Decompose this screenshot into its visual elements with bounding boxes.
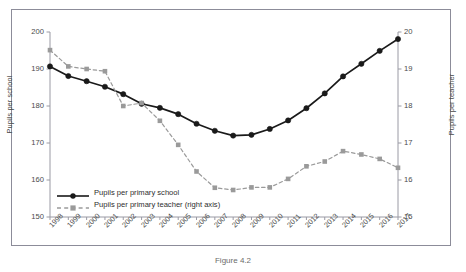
series-marker-0 (157, 105, 162, 110)
y-tick-label-left: 170 (16, 138, 44, 147)
y-tick-label-right: 19 (404, 64, 412, 73)
series-marker-0 (121, 92, 126, 97)
y-tick-label-left: 160 (16, 175, 44, 184)
y-tick-label-right: 18 (404, 101, 412, 110)
series-marker-1 (231, 188, 236, 193)
series-marker-0 (176, 112, 181, 117)
series-marker-1 (194, 169, 199, 174)
chart-legend: Pupils per primary school Pupils per pri… (56, 186, 220, 210)
series-marker-1 (359, 152, 364, 157)
series-marker-0 (267, 126, 272, 131)
series-marker-1 (304, 164, 309, 169)
y-tick-label-left: 180 (16, 101, 44, 110)
series-marker-1 (249, 185, 254, 190)
series-marker-1 (176, 143, 181, 148)
y-tick-label-left: 150 (16, 212, 44, 221)
legend-swatch-dashed-square (56, 199, 90, 209)
series-marker-0 (395, 36, 400, 41)
legend-label-school: Pupils per primary school (94, 188, 179, 197)
series-marker-1 (48, 48, 53, 53)
series-marker-0 (340, 74, 345, 79)
series-marker-0 (359, 61, 364, 66)
series-marker-1 (66, 64, 71, 69)
series-marker-0 (212, 128, 217, 133)
series-marker-0 (286, 118, 291, 123)
y-tick-label-left: 200 (16, 27, 44, 36)
series-marker-1 (341, 149, 346, 154)
y-tick-label-left: 190 (16, 64, 44, 73)
series-marker-1 (103, 69, 108, 74)
figure-caption: Figure 4.2 (0, 256, 466, 265)
y-tick-label-right: 16 (404, 175, 412, 184)
series-marker-1 (158, 119, 163, 124)
y-tick-label-right: 17 (404, 138, 412, 147)
y-axis-right-title: Pupils per teacher (447, 65, 456, 145)
legend-item-school[interactable]: Pupils per primary school (56, 186, 220, 198)
series-marker-1 (121, 104, 126, 109)
series-marker-0 (102, 84, 107, 89)
series-marker-0 (47, 64, 52, 69)
legend-item-teacher[interactable]: Pupils per primary teacher (right axis) (56, 198, 220, 210)
series-marker-0 (194, 121, 199, 126)
series-marker-0 (66, 73, 71, 78)
legend-swatch-solid-circle (56, 187, 90, 197)
y-tick-label-right: 20 (404, 27, 412, 36)
series-marker-0 (231, 133, 236, 138)
series-marker-0 (249, 132, 254, 137)
series-line-1 (50, 50, 398, 190)
series-marker-0 (377, 48, 382, 53)
series-marker-1 (322, 159, 327, 164)
series-marker-1 (286, 177, 291, 182)
series-marker-0 (304, 106, 309, 111)
series-marker-1 (377, 157, 382, 162)
series-marker-0 (84, 79, 89, 84)
series-marker-0 (322, 91, 327, 96)
series-marker-1 (267, 185, 272, 190)
legend-label-teacher: Pupils per primary teacher (right axis) (94, 200, 220, 209)
y-axis-left-title: Pupils per school (5, 65, 14, 145)
chart-plot-area (0, 0, 466, 272)
series-marker-1 (84, 67, 89, 72)
series-marker-1 (396, 165, 401, 170)
series-marker-1 (139, 101, 144, 106)
